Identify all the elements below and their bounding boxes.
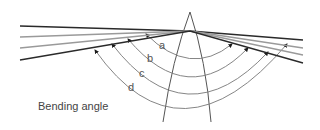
label-d: d (128, 81, 134, 93)
diagram-caption: Bending angle (38, 100, 108, 112)
arc-d (95, 44, 287, 109)
label-a: a (159, 39, 166, 51)
label-c: c (139, 67, 145, 79)
label-b: b (147, 52, 153, 64)
ray-a (20, 26, 303, 40)
